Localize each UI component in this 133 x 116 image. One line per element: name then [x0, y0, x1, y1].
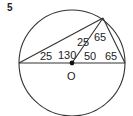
- geometry-figure: 5 O 25 25 130 65 50 65: [0, 0, 133, 116]
- angle-label-top-left: 25: [77, 36, 89, 48]
- center-label: O: [67, 70, 76, 82]
- angle-label-central-right: 50: [84, 50, 96, 62]
- angle-label-central-left: 130: [58, 49, 76, 61]
- angle-label-top-right: 65: [94, 31, 106, 43]
- angle-label-right-vertex: 65: [105, 50, 117, 62]
- problem-number: 5: [7, 2, 13, 13]
- center-point: [70, 61, 75, 66]
- angle-label-left-vertex: 25: [40, 50, 52, 62]
